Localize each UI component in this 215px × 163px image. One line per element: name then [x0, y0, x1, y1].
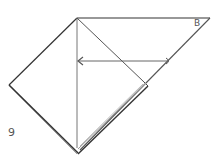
point-label-b: B [194, 19, 200, 28]
inner-diagonal-line [77, 18, 144, 82]
layer-edge-2 [80, 84, 143, 146]
layer-edge-1 [78, 83, 146, 149]
left-lower-edge [9, 85, 78, 153]
step-number: 9 [8, 127, 15, 138]
origami-diagram: B 9 [0, 0, 215, 163]
left-upper-edge [9, 18, 77, 85]
bottom-right-edge [78, 86, 148, 154]
